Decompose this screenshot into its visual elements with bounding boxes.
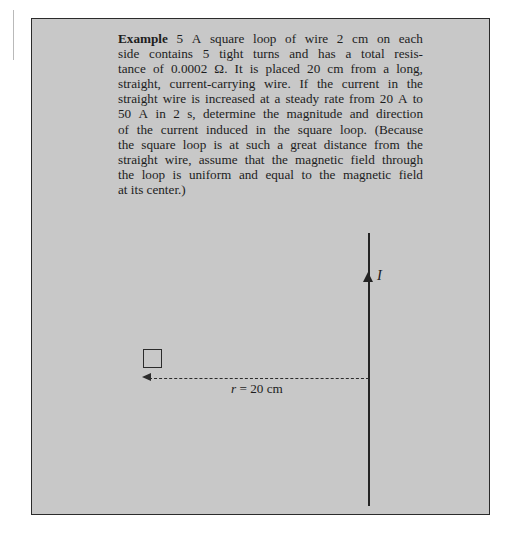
w: distance (324, 137, 367, 152)
page-edge-rule (13, 10, 14, 60)
w: Ω. (214, 61, 227, 76)
text-line-11: at its center.) (118, 182, 423, 197)
w: square (141, 137, 175, 152)
w: great (290, 137, 316, 152)
example-number: 5 (176, 31, 183, 46)
w: in (156, 106, 166, 121)
text-line-1-word-4: of (285, 31, 296, 46)
w: field (399, 167, 423, 182)
distance-symbol: r (231, 381, 236, 396)
w: 2 (173, 106, 180, 121)
w: the (118, 167, 134, 182)
w: contains (149, 46, 193, 61)
w: induced (206, 122, 248, 137)
current-label: I (377, 267, 382, 284)
text-line-6: 50Ain2s,determinethemagnitudeanddirectio… (118, 106, 423, 121)
w: is (213, 137, 222, 152)
w: the (137, 122, 153, 137)
w: magnetic (295, 152, 343, 167)
w: increased (205, 91, 255, 106)
example-figure-panel: Example5Asquareloopofwire2cmoneach sidec… (31, 18, 490, 515)
w: such (246, 137, 270, 152)
w: at (229, 137, 239, 152)
w: 5 (203, 46, 210, 61)
text-line-10: theloopisuniformandequaltothemagneticfie… (118, 167, 423, 182)
w: and (350, 106, 369, 121)
w: a (383, 61, 389, 76)
w: It (235, 61, 243, 76)
w: field (351, 152, 375, 167)
text-line-1-word-2: square (210, 31, 244, 46)
w: to (413, 91, 423, 106)
w: loop (142, 167, 165, 182)
w: placed (266, 61, 300, 76)
w: wire (163, 91, 186, 106)
w: steady (285, 91, 319, 106)
w: the (118, 137, 134, 152)
w: tance (118, 61, 146, 76)
text-line-7: ofthecurrentinducedinthesquareloop.(Beca… (118, 122, 423, 137)
text-line-1-word-6: 2 (337, 31, 344, 46)
w: the (319, 167, 335, 182)
w: determine (203, 106, 256, 121)
w: a (277, 137, 283, 152)
w: turns (253, 46, 279, 61)
distance-label: r = 20 cm (231, 381, 283, 397)
w: the (263, 106, 279, 121)
w: from (351, 61, 377, 76)
w: A (398, 91, 408, 106)
text-line-1-word-5: wire (305, 31, 328, 46)
w: the (274, 122, 290, 137)
w: a (275, 91, 281, 106)
text-line-8: thesquareloopisatsuchagreatdistancefromt… (118, 137, 423, 152)
distance-equals: = (236, 381, 250, 396)
w: 20 (380, 91, 393, 106)
text-line-9: straightwire,assumethatthemagneticfieldt… (118, 152, 423, 167)
text-line-1-word-7: cm (352, 31, 368, 46)
w: (Because (375, 122, 423, 137)
w: is (250, 61, 259, 76)
w: direction (376, 106, 423, 121)
w: a (345, 46, 351, 61)
w: loop (183, 137, 206, 152)
w: 0.0002 (171, 61, 207, 76)
w: straight (118, 152, 158, 167)
w: cm (327, 61, 343, 76)
square-loop-shape (143, 349, 162, 368)
w: in (256, 122, 266, 137)
w: loop. (340, 122, 367, 137)
w: s, (187, 106, 195, 121)
text-line-3: tanceof0.0002Ω.Itisplaced20cmfromalong, (118, 61, 423, 76)
w: in (388, 76, 398, 91)
w: square (298, 122, 332, 137)
text-line-1-word-8: on (377, 31, 390, 46)
w: to (301, 167, 311, 182)
example-lead-label: Example (118, 31, 168, 46)
w: the (272, 152, 288, 167)
w: total (361, 46, 384, 61)
w: from (374, 137, 400, 152)
text-line-1-word-1: A (192, 31, 202, 46)
w: is (173, 167, 182, 182)
w: wire, (165, 152, 192, 167)
example-problem-text: Example5Asquareloopofwire2cmoneach sidec… (118, 31, 423, 197)
w: magnitude (287, 106, 343, 121)
text-line-1: Example5Asquareloopofwire2cmoneach (118, 31, 423, 46)
w: assume (199, 152, 238, 167)
text-line-1-word-9: each (399, 31, 423, 46)
w: has (318, 46, 336, 61)
straight-wire-line (368, 233, 370, 506)
w: the (407, 76, 423, 91)
w: current (342, 76, 379, 91)
w: long, (396, 61, 423, 76)
w: straight (118, 91, 158, 106)
w: equal (265, 167, 294, 182)
w: of (153, 61, 164, 76)
w: 50 (118, 106, 131, 121)
w: uniform (189, 167, 232, 182)
distance-dashed-line (149, 378, 369, 379)
text-line-2: sidecontains5tightturnsandhasatotalresis… (118, 46, 423, 61)
text-line-5: straightwireisincreasedatasteadyratefrom… (118, 91, 423, 106)
w: 20 (307, 61, 320, 76)
text-line-4: straight,current-carryingwire.Ifthecurre… (118, 76, 423, 91)
